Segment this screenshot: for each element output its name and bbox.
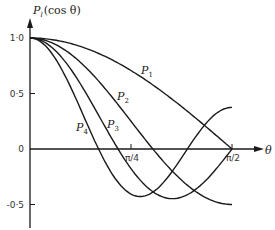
x-axis-arrow-icon bbox=[254, 146, 264, 152]
curve-label-p2: P2 bbox=[116, 90, 129, 105]
y-tick-label: 1·0 bbox=[10, 33, 25, 43]
x-tick-label: π/4 bbox=[125, 153, 139, 163]
y-tick-label: -0·5 bbox=[6, 200, 24, 210]
y-tick-label: 0·5 bbox=[10, 89, 24, 99]
curve-p4 bbox=[30, 38, 232, 197]
curve-p2 bbox=[30, 38, 232, 205]
x-axis-title: θ bbox=[265, 144, 272, 157]
curves bbox=[30, 38, 232, 205]
axes bbox=[30, 26, 258, 228]
y-tick-label: 0 bbox=[18, 144, 24, 154]
y-axis-arrow-icon bbox=[27, 18, 33, 28]
curve-p3 bbox=[30, 38, 232, 199]
curve-label-p1: P1 bbox=[140, 64, 153, 79]
y-axis-title: Pl(cos θ) bbox=[32, 4, 81, 19]
curve-label-p3: P3 bbox=[106, 118, 119, 133]
tick-labels: 1·00·50-0·5π/4π/2 bbox=[6, 33, 240, 210]
legendre-chart: 1·00·50-0·5π/4π/2 P1P2P3P4 Pl(cos θ) θ bbox=[0, 0, 275, 230]
curve-p1 bbox=[30, 38, 232, 149]
